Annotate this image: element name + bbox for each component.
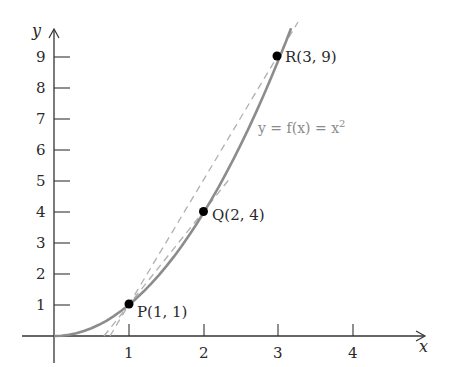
y-tick-label: 7 bbox=[36, 110, 46, 128]
x-tick-label: 4 bbox=[348, 344, 358, 362]
point-r-label: R(3, 9) bbox=[285, 48, 337, 66]
x-tick-label: 1 bbox=[124, 344, 134, 362]
secant-line-pr bbox=[110, 22, 298, 336]
point-q bbox=[199, 207, 208, 216]
y-tick-label: 2 bbox=[36, 265, 46, 283]
point-q-label: Q(2, 4) bbox=[212, 206, 265, 224]
x-tick-label: 2 bbox=[199, 344, 209, 362]
point-p-label: P(1, 1) bbox=[137, 303, 187, 321]
y-tick-label: 6 bbox=[36, 141, 46, 159]
y-tick-label: 1 bbox=[36, 296, 46, 314]
y-tick-label: 9 bbox=[36, 48, 46, 66]
y-tick-label: 3 bbox=[36, 234, 46, 252]
y-tick-label: 8 bbox=[36, 79, 46, 97]
chart: x y 1 2 3 4 1 2 3 4 5 6 7 8 9 bbox=[0, 0, 454, 367]
point-p bbox=[125, 300, 134, 309]
y-tick-label: 4 bbox=[36, 203, 46, 221]
axes: x y bbox=[22, 21, 428, 363]
point-r bbox=[273, 52, 282, 61]
y-axis-label: y bbox=[31, 21, 42, 40]
y-tick-label: 5 bbox=[36, 172, 46, 190]
function-label: y = f(x) = x2 bbox=[257, 118, 345, 136]
y-ticks: 1 2 3 4 5 6 7 8 9 bbox=[36, 48, 70, 314]
x-axis-label: x bbox=[419, 337, 428, 356]
parabola-curve bbox=[54, 28, 291, 336]
x-tick-label: 3 bbox=[273, 344, 283, 362]
x-ticks: 1 2 3 4 bbox=[124, 324, 358, 362]
